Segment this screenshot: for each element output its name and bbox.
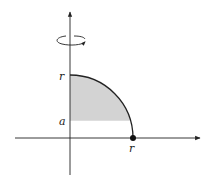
label-x-end-r: r [129,142,135,155]
endpoint-dot [130,135,136,141]
diagram-canvas: r a r [0,0,212,183]
label-y-level-a: a [59,115,66,128]
label-y-top-r: r [59,70,65,83]
rotation-arrow-icon [57,36,85,45]
